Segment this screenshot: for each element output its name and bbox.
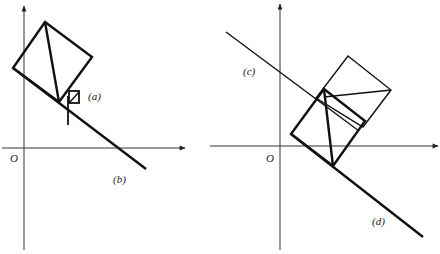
right-panel: O (c) (d) — [210, 4, 438, 250]
thick-square-diagonal — [324, 89, 333, 166]
diagram-canvas: O (a) (b) O (c) (d) — [0, 0, 440, 254]
label-c: (c) — [243, 65, 256, 78]
small-square-a-diagonal — [69, 92, 79, 103]
right-origin-label: O — [266, 152, 274, 164]
line-d — [291, 134, 423, 237]
left-square-diagonal — [45, 22, 59, 102]
label-d: (d) — [372, 215, 385, 228]
line-c — [226, 32, 359, 131]
label-a: (a) — [88, 90, 101, 103]
left-panel: O (a) (b) — [2, 6, 185, 250]
label-b: (b) — [113, 173, 126, 186]
left-origin-label: O — [10, 152, 18, 164]
